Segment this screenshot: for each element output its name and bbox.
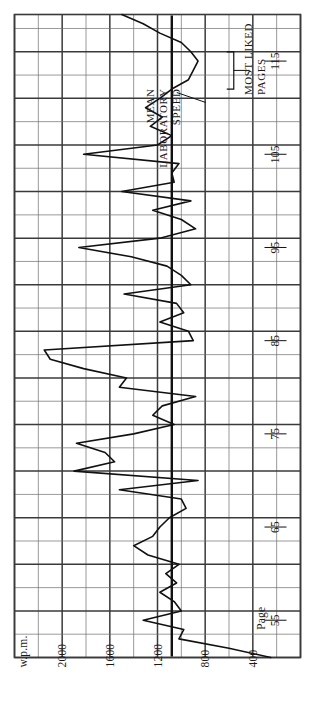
most-liked-annotation-text: MOST LIKED [242, 23, 254, 95]
category-axis-tick-label: 85 [269, 335, 281, 347]
reading-speed-chart: 200016001200800400w.p.m.5565758595105115… [0, 0, 322, 711]
category-axis-tick-label: 115 [269, 52, 281, 69]
category-axis-unit-label: Page [255, 607, 268, 630]
category-axis-tick-label: 75 [269, 428, 281, 440]
value-axis-tick-label: 800 [199, 650, 211, 668]
category-axis-tick-label: 105 [269, 145, 281, 163]
value-axis-tick-label: 1200 [152, 644, 164, 668]
axis-and-annotation-labels: 200016001200800400w.p.m.5565758595105115… [17, 23, 281, 668]
category-axis-tick-label: 95 [269, 241, 281, 253]
category-axis-tick-label: 65 [269, 521, 281, 533]
value-axis-tick-label: 400 [247, 650, 259, 668]
mean-line-annotation-text: LABORATORY [157, 89, 169, 168]
chart-figure: 200016001200800400w.p.m.5565758595105115… [0, 0, 322, 711]
mean-line-annotation-text: MEAN [144, 89, 156, 124]
value-axis-unit-label: w.p.m. [17, 635, 30, 667]
category-axis-tick-label: 55 [269, 614, 281, 626]
most-liked-annotation-text: PAGES [255, 58, 267, 95]
value-axis-tick-label: 2000 [56, 644, 68, 668]
value-axis-tick-label: 1600 [104, 644, 116, 668]
